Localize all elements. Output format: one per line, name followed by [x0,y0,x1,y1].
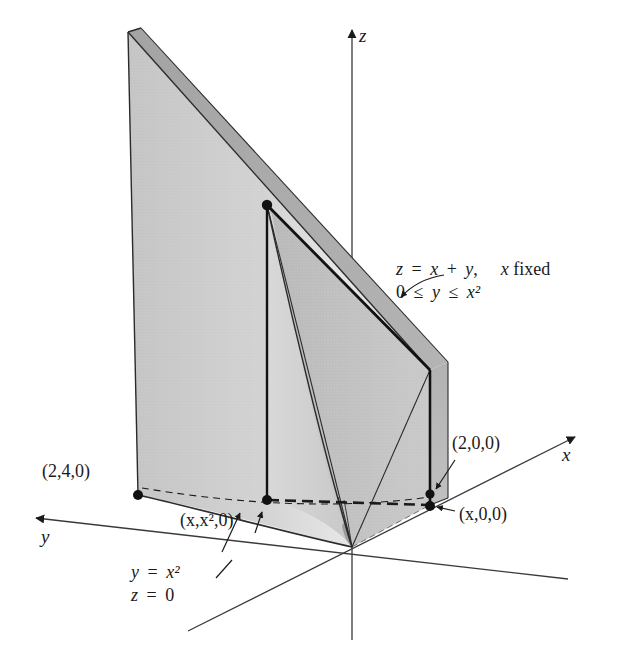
figure-container: z x y (2,4,0) (x,x²,0) (2,0,0) (x,0,0) z… [0,0,620,656]
point-label-x-x2-0: (x,x²,0) [180,509,233,532]
plane-ineq-rel-2: ≤ [444,282,462,302]
leader-base-curve-long [216,560,232,578]
plane-note-word: fixed [513,259,550,279]
base-curve-line-1: y = x² [131,561,180,584]
base-curve-expr: x² [166,562,179,582]
plane-eq-op: + [443,259,461,279]
base-plane-expr: 0 [165,585,174,605]
base-plane-rel: = [143,585,161,605]
base-curve-var: y [131,562,139,582]
plane-ineq-var: y [432,282,440,302]
point-label-x-0-0: (x,0,0) [459,503,507,526]
plane-annotation-line-1: z = x + y, x fixed [396,258,550,281]
z-axis-label: z [359,24,366,48]
diagram-canvas [0,0,620,656]
dot-base-x-x2 [262,495,272,505]
base-curve-annotation: y = x² z = 0 [131,561,180,606]
plane-note-var: x [501,259,509,279]
y-axis-label: y [41,525,49,549]
plane-ineq-lower: 0 [396,282,405,302]
x-axis-label: x [562,443,570,467]
base-curve-line-2: z = 0 [131,584,180,607]
dot-top-x [262,200,272,210]
base-plane-var: z [131,585,138,605]
plane-ineq-rel-1: ≤ [410,282,428,302]
plane-eq-rel: = [408,259,426,279]
plane-annotation: z = x + y, x fixed 0 ≤ y ≤ x² [396,258,550,303]
plane-annotation-line-2: 0 ≤ y ≤ x² [396,281,550,304]
plane-eq-rhs-a: x [430,259,438,279]
dot-base-2-4 [133,490,143,500]
leader-point-x-0-0 [437,507,455,511]
base-curve-rel: = [144,562,162,582]
plane-ineq-upper: x² [467,282,480,302]
dot-base-x-0 [425,501,435,511]
point-label-2-4-0: (2,4,0) [42,460,90,483]
dot-base-2-0 [425,489,434,498]
plane-eq-lhs: z [396,259,403,279]
plane-eq-comma: , [473,259,478,279]
point-label-2-0-0: (2,0,0) [452,432,500,455]
